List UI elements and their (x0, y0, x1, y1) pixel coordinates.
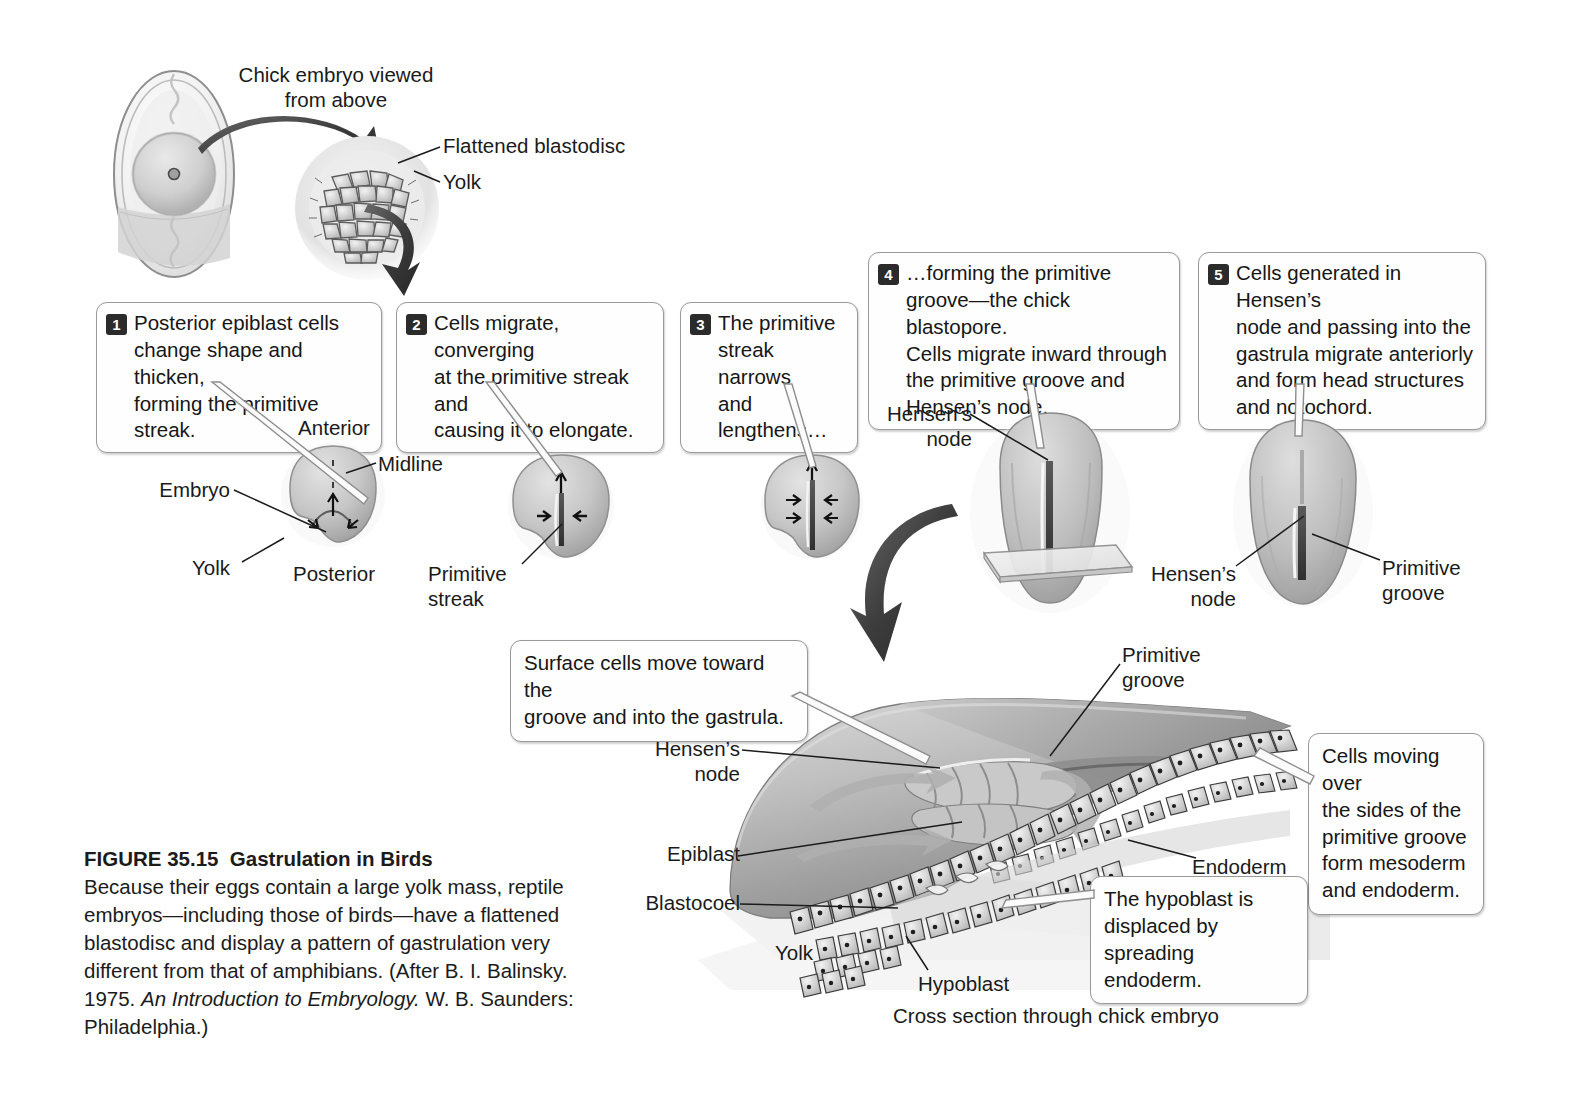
hensens-node-label-stage4: Hensen’s node (876, 402, 972, 451)
stage2-leader-line (500, 508, 590, 570)
cross-section-bottom-caption: Cross section through chick embryo (893, 1004, 1219, 1029)
stage5-leader-lines (1232, 500, 1392, 578)
mesoderm-callout[interactable]: Cells moving over the sides of the primi… (1308, 733, 1484, 915)
caption-source-title: An Introduction to Embryology. (141, 987, 420, 1010)
chick-embryo-viewed-label: Chick embryo viewed from above (232, 63, 440, 112)
step-number-badge-4: 4 (878, 264, 899, 285)
figure-number: FIGURE 35.15 (84, 847, 218, 870)
step3-pointer (778, 382, 838, 482)
arrow-blastodisc-to-step1-icon (360, 198, 440, 298)
figure-canvas: Chick embryo viewed from above (0, 0, 1594, 1100)
figure-caption: FIGURE 35.15 Gastrulation in Birds Becau… (84, 845, 609, 1042)
cross-section-leader-lines (610, 640, 1250, 980)
step-text-5: Cells generated in Hensen’s node and pas… (1236, 260, 1474, 421)
figure-title: Gastrulation in Birds (230, 847, 433, 870)
step-number-badge-2: 2 (406, 314, 427, 335)
step5-pointer (1282, 382, 1326, 448)
flattened-blastodisc-label: Flattened blastodisc (443, 134, 625, 159)
leader-blastodisc (392, 140, 452, 190)
mesoderm-callout-text: Cells moving over the sides of the primi… (1322, 743, 1470, 904)
step-number-badge-5: 5 (1208, 264, 1229, 285)
step2-pointer (478, 380, 588, 492)
mesoderm-callout-pointer (1252, 742, 1322, 794)
step-number-badge-1: 1 (106, 314, 127, 335)
step1-pointer (192, 380, 392, 520)
hensens-node-label-stage5: Hensen’s node (1140, 562, 1236, 611)
step4-pointer (1020, 382, 1064, 462)
primitive-streak-label: Primitive streak (428, 562, 507, 611)
primitive-groove-label-stage5: Primitive groove (1382, 556, 1461, 605)
step-callout-5[interactable]: 5 Cells generated in Hensen’s node and p… (1198, 252, 1486, 430)
step-number-badge-3: 3 (690, 314, 711, 335)
